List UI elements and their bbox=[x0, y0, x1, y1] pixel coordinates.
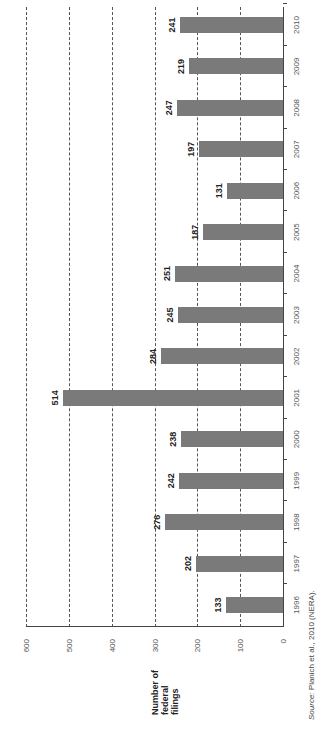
bar-2000 bbox=[181, 431, 283, 447]
x-tick-label: 2000 bbox=[292, 424, 301, 454]
bar-value-label: 202 bbox=[183, 549, 193, 579]
x-tick-mark bbox=[283, 583, 287, 584]
x-tick-mark bbox=[283, 3, 287, 4]
y-tick-label: 400 bbox=[107, 639, 116, 669]
bar-value-label: 197 bbox=[186, 134, 196, 164]
bar-value-label: 133 bbox=[213, 590, 223, 620]
x-tick-label: 2007 bbox=[292, 134, 301, 164]
chart-stage: 0100200300400500600 13319962021997276199… bbox=[0, 0, 321, 729]
bar-2001 bbox=[63, 390, 283, 406]
source-label: Source: bbox=[307, 692, 316, 720]
bar-2004 bbox=[175, 266, 283, 282]
bar-value-label: 247 bbox=[164, 93, 174, 123]
x-tick-mark bbox=[283, 169, 287, 170]
y-tick-label: 0 bbox=[279, 639, 288, 669]
x-tick-label: 2003 bbox=[292, 300, 301, 330]
x-tick-mark bbox=[283, 376, 287, 377]
bar-2010 bbox=[180, 17, 283, 33]
x-tick-label: 1999 bbox=[292, 466, 301, 496]
x-tick-label: 1997 bbox=[292, 549, 301, 579]
y-axis-line bbox=[26, 626, 283, 627]
x-tick-mark bbox=[283, 210, 287, 211]
bar-2007 bbox=[199, 141, 283, 157]
bar-value-label: 242 bbox=[166, 466, 176, 496]
gridline-600 bbox=[26, 7, 27, 627]
bar-value-label: 219 bbox=[176, 51, 186, 81]
bar-value-label: 514 bbox=[50, 383, 60, 413]
bar-1999 bbox=[179, 473, 283, 489]
y-tick-label: 100 bbox=[236, 639, 245, 669]
bar-value-label: 238 bbox=[168, 424, 178, 454]
bar-2008 bbox=[177, 100, 283, 116]
x-axis-baseline bbox=[283, 7, 284, 627]
bar-value-label: 284 bbox=[148, 341, 158, 371]
bar-1996 bbox=[226, 597, 283, 613]
bar-value-label: 276 bbox=[152, 507, 162, 537]
x-tick-label: 2008 bbox=[292, 93, 301, 123]
x-tick-label: 2001 bbox=[292, 383, 301, 413]
x-tick-label: 2009 bbox=[292, 51, 301, 81]
gridline-500 bbox=[69, 7, 70, 627]
x-tick-mark bbox=[283, 418, 287, 419]
y-axis-label-line-2: federal bbox=[160, 645, 170, 715]
source-text: Planich et al., 2010 (NERA). bbox=[307, 590, 316, 692]
x-tick-mark bbox=[283, 293, 287, 294]
y-axis-label-line-1: Number of bbox=[150, 645, 160, 715]
x-tick-label: 2006 bbox=[292, 176, 301, 206]
bar-value-label: 251 bbox=[162, 259, 172, 289]
y-axis-label: Number of federal filings bbox=[150, 645, 180, 715]
x-tick-label: 2004 bbox=[292, 259, 301, 289]
bar-value-label: 245 bbox=[165, 300, 175, 330]
x-tick-mark bbox=[283, 128, 287, 129]
source-note: Source: Planich et al., 2010 (NERA). bbox=[307, 590, 316, 720]
bar-value-label: 187 bbox=[190, 217, 200, 247]
x-tick-mark bbox=[283, 86, 287, 87]
x-tick-mark bbox=[283, 500, 287, 501]
y-tick-label: 600 bbox=[22, 639, 31, 669]
x-tick-label: 2005 bbox=[292, 217, 301, 247]
gridline-400 bbox=[112, 7, 113, 627]
bar-2003 bbox=[178, 307, 283, 323]
bar-1998 bbox=[165, 514, 283, 530]
x-tick-mark bbox=[283, 45, 287, 46]
y-axis-label-line-3: filings bbox=[170, 645, 180, 715]
y-tick-label: 500 bbox=[64, 639, 73, 669]
bar-value-label: 241 bbox=[167, 10, 177, 40]
x-tick-label: 2010 bbox=[292, 10, 301, 40]
x-tick-mark bbox=[283, 335, 287, 336]
x-tick-label: 2002 bbox=[292, 341, 301, 371]
bar-2006 bbox=[227, 183, 283, 199]
x-tick-mark bbox=[283, 459, 287, 460]
x-tick-label: 1998 bbox=[292, 507, 301, 537]
bar-1997 bbox=[196, 556, 283, 572]
x-tick-mark bbox=[283, 542, 287, 543]
bar-2002 bbox=[161, 348, 283, 364]
x-tick-label: 1996 bbox=[292, 590, 301, 620]
bar-value-label: 131 bbox=[214, 176, 224, 206]
bar-2009 bbox=[189, 58, 283, 74]
x-tick-mark bbox=[283, 252, 287, 253]
bar-2005 bbox=[203, 224, 283, 240]
y-tick-label: 200 bbox=[193, 639, 202, 669]
